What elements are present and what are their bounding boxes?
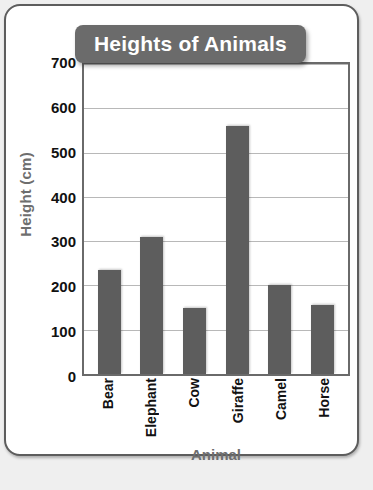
x-label-slot: Bear bbox=[86, 378, 129, 444]
x-tick-label-horse: Horse bbox=[316, 378, 332, 420]
x-tick-label-camel: Camel bbox=[273, 378, 289, 422]
bar-giraffe bbox=[226, 126, 249, 374]
bar-slot bbox=[173, 64, 215, 374]
y-tick-label: 400 bbox=[51, 188, 76, 205]
x-tick-label-elephant: Elephant bbox=[143, 378, 159, 439]
x-axis-title: Animal bbox=[82, 446, 350, 463]
bar-bear bbox=[98, 270, 121, 374]
x-label-slot: Horse bbox=[303, 378, 346, 444]
y-tick-label: 600 bbox=[51, 98, 76, 115]
y-tick-label: 0 bbox=[68, 368, 76, 385]
bar-slot bbox=[259, 64, 301, 374]
bar-series bbox=[84, 64, 348, 374]
bar-slot bbox=[216, 64, 258, 374]
bar-slot bbox=[88, 64, 130, 374]
worksheet-page: 0100200300400500600700 Height (cm) BearE… bbox=[4, 4, 359, 456]
chart-plot-frame bbox=[82, 62, 350, 376]
bar-elephant bbox=[140, 237, 163, 374]
y-tick-label: 100 bbox=[51, 323, 76, 340]
y-tick-label: 700 bbox=[51, 54, 76, 71]
x-label-slot: Elephant bbox=[129, 378, 172, 444]
bar-slot bbox=[131, 64, 173, 374]
bar-slot bbox=[301, 64, 343, 374]
y-tick-label: 200 bbox=[51, 278, 76, 295]
x-tick-label-giraffe: Giraffe bbox=[230, 378, 246, 425]
bar-cow bbox=[183, 308, 206, 374]
x-tick-label-bear: Bear bbox=[100, 378, 116, 411]
chart-title-banner: Heights of Animals bbox=[75, 25, 306, 63]
x-label-slot: Cow bbox=[173, 378, 216, 444]
y-axis-tick-labels: 0100200300400500600700 bbox=[30, 62, 80, 376]
x-label-slot: Giraffe bbox=[216, 378, 259, 444]
y-tick-label: 300 bbox=[51, 233, 76, 250]
y-axis-title: Height (cm) bbox=[17, 145, 34, 245]
bar-camel bbox=[268, 285, 291, 374]
bar-horse bbox=[311, 305, 334, 374]
x-axis-tick-labels: BearElephantCowGiraffeCamelHorse bbox=[82, 378, 350, 444]
chart-title-text: Heights of Animals bbox=[94, 32, 287, 56]
plot-area bbox=[84, 64, 348, 374]
x-label-slot: Camel bbox=[259, 378, 302, 444]
y-tick-label: 500 bbox=[51, 143, 76, 160]
x-tick-label-cow: Cow bbox=[186, 378, 202, 410]
